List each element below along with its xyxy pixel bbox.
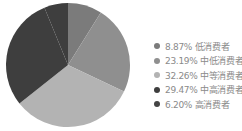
legend: 8.87% 低消费者 23.19% 中低消费者 32.26% 中等消费者 29.…	[154, 39, 242, 112]
legend-label: 23.19% 中低消费者	[165, 54, 242, 67]
pie-plot	[5, 2, 131, 128]
legend-dot-icon	[154, 101, 160, 107]
legend-label: 32.26% 中等消费者	[165, 69, 242, 82]
legend-dot-icon	[154, 72, 160, 78]
pie-chart: 8.87% 低消费者 23.19% 中低消费者 32.26% 中等消费者 29.…	[0, 0, 242, 131]
legend-dot-icon	[154, 43, 160, 49]
legend-label: 29.47% 中高消费者	[165, 83, 242, 96]
legend-label: 6.20% 高消费者	[165, 98, 229, 111]
legend-item: 8.87% 低消费者	[154, 39, 242, 54]
legend-item: 23.19% 中低消费者	[154, 54, 242, 69]
legend-item: 32.26% 中等消费者	[154, 68, 242, 83]
legend-item: 6.20% 高消费者	[154, 97, 242, 112]
legend-item: 29.47% 中高消费者	[154, 83, 242, 98]
legend-dot-icon	[154, 87, 160, 93]
legend-dot-icon	[154, 58, 160, 64]
legend-label: 8.87% 低消费者	[165, 40, 229, 53]
